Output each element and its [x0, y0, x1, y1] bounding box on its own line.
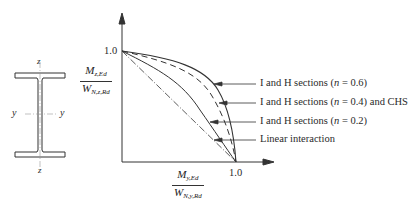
chart-curves [122, 51, 236, 162]
x-tick-1: 1.0 [229, 167, 242, 178]
legend-item-n06: I and H sections (n = 0.6) [260, 77, 367, 88]
curve-linear [122, 51, 236, 162]
y-tick-1: 1.0 [104, 45, 117, 56]
section-axis-z-bottom: z [38, 165, 42, 175]
i-section-icon [15, 62, 65, 168]
x-axis-label: My,Ed WN,y,Rd [172, 168, 204, 203]
legend-item-n04-chs: I and H sections (n = 0.4) and CHS [260, 96, 408, 107]
legend-item-linear: Linear interaction [260, 133, 335, 144]
y-axis-label: Mz,Ed WN,z,Rd [80, 64, 112, 99]
section-axis-y-right: y [60, 107, 64, 118]
section-axis-z-top: z [37, 56, 41, 66]
legend-item-n02: I and H sections (n = 0.2) [260, 115, 367, 126]
section-axis-y-left: y [12, 107, 16, 118]
chart-axes [119, 13, 274, 165]
